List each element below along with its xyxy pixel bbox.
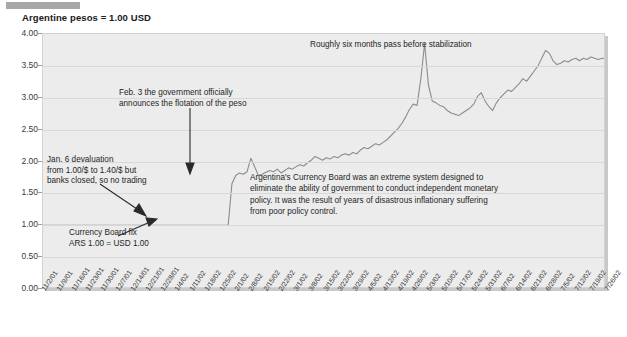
y-axis-label: 1.00 — [21, 219, 38, 229]
x-axis: 11/2/0111/9/0111/16/0111/23/0111/30/0112… — [0, 288, 627, 337]
annotation-feb3-flotation: Feb. 3 the government officially announc… — [119, 88, 246, 109]
gridline — [43, 225, 605, 226]
y-axis-label: 1.50 — [21, 187, 38, 197]
annotation-stabilization: Roughly six months pass before stabiliza… — [310, 40, 472, 51]
gridline — [43, 130, 605, 131]
y-axis-label: 4.00 — [21, 28, 38, 38]
annotation-currency-board-explainer: Argentina's Currency Board was an extrem… — [250, 172, 498, 218]
y-axis: 0.000.501.001.502.002.503.003.504.00 — [0, 0, 42, 300]
y-axis-label: 2.00 — [21, 156, 38, 166]
gridline — [43, 66, 605, 67]
y-axis-label: 3.50 — [21, 60, 38, 70]
annotation-currency-board-fix: Currency Board fix ARS 1.00 = USD 1.00 — [69, 228, 149, 249]
annotation-jan6-devaluation: Jan. 6 devaluation from 1.00/$ to 1.40/$… — [47, 155, 147, 187]
y-axis-label: 2.50 — [21, 124, 38, 134]
y-axis-label: 0.50 — [21, 251, 38, 261]
gridline — [43, 257, 605, 258]
y-axis-label: 3.00 — [21, 92, 38, 102]
